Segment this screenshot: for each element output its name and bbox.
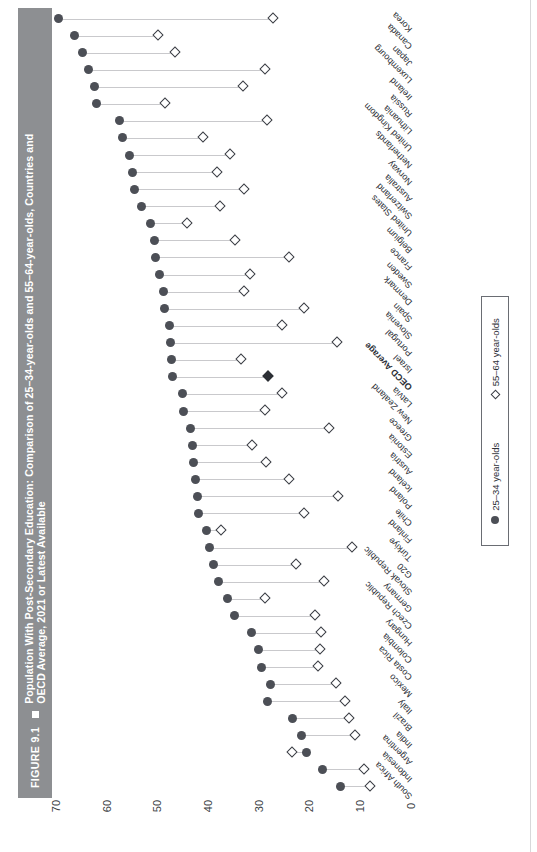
data-point-55-64[interactable] [330,678,341,689]
legend-item-25-34[interactable]: 25–34 year-olds [490,443,501,524]
data-point-25-34[interactable] [118,133,127,142]
data-point-55-64[interactable] [260,405,271,416]
data-point-25-34[interactable] [188,441,197,450]
data-point-55-64[interactable] [323,422,334,433]
data-point-55-64[interactable] [215,200,226,211]
data-point-25-34[interactable] [205,543,214,552]
data-point-25-34[interactable] [223,594,232,603]
data-point-55-64[interactable] [238,285,249,296]
data-point-55-64[interactable] [339,695,350,706]
data-point-25-34[interactable] [92,99,101,108]
data-point-55-64[interactable] [343,712,354,723]
data-point-25-34[interactable] [288,714,297,723]
data-point-25-34[interactable] [54,14,63,23]
data-point-25-34[interactable] [266,680,275,689]
data-point-55-64[interactable] [333,490,344,501]
connector-line [214,565,297,566]
data-point-25-34[interactable] [159,287,168,296]
data-point-55-64[interactable] [299,507,310,518]
data-point-25-34[interactable] [166,338,175,347]
data-point-25-34[interactable] [247,628,256,637]
data-point-55-64[interactable] [244,268,255,279]
connector-line [252,633,321,634]
data-point-25-34[interactable] [150,236,159,245]
data-point-55-64[interactable] [346,541,357,552]
data-point-25-34[interactable] [230,611,239,620]
data-point-25-34[interactable] [115,116,124,125]
data-point-25-34[interactable] [90,82,99,91]
data-point-55-64[interactable] [152,29,163,40]
data-point-55-64[interactable] [315,627,326,638]
data-point-25-34[interactable] [318,765,327,774]
data-point-55-64[interactable] [314,644,325,655]
connector-line [270,684,336,685]
data-point-25-34[interactable] [130,185,139,194]
data-point-25-34[interactable] [146,219,155,228]
data-point-25-34[interactable] [202,526,211,535]
data-point-25-34[interactable] [194,509,203,518]
data-point-25-34[interactable] [214,577,223,586]
data-point-25-34[interactable] [168,372,177,381]
data-point-25-34[interactable] [189,458,198,467]
data-point-55-64[interactable] [283,251,294,262]
data-point-25-34[interactable] [263,697,272,706]
connector-line [88,70,265,71]
legend-item-55-64[interactable]: 55–64 year-olds [490,318,501,398]
data-point-25-34[interactable] [167,355,176,364]
data-point-25-34[interactable] [151,253,160,262]
data-point-55-64[interactable] [312,661,323,672]
data-point-55-64[interactable] [290,558,301,569]
data-point-55-64[interactable] [364,780,375,791]
data-point-55-64[interactable] [287,746,298,757]
data-point-55-64[interactable] [358,763,369,774]
data-point-55-64[interactable] [169,46,180,57]
axis-tick-text: 50 [151,800,163,812]
data-point-25-34[interactable] [209,560,218,569]
data-point-55-64[interactable] [349,729,360,740]
data-point-25-34[interactable] [254,645,263,654]
data-point-25-34[interactable] [78,48,87,57]
data-point-25-34[interactable] [165,321,174,330]
data-point-25-34[interactable] [179,407,188,416]
data-point-55-64[interactable] [309,610,320,621]
data-point-25-34[interactable] [160,304,169,313]
data-point-25-34[interactable] [70,31,79,40]
data-point-55-64[interactable] [197,132,208,143]
data-point-55-64[interactable] [276,388,287,399]
data-point-55-64[interactable] [160,98,171,109]
data-point-25-34[interactable] [155,270,164,279]
data-point-25-34[interactable] [297,731,306,740]
data-point-55-64[interactable] [259,63,270,74]
data-point-55-64[interactable] [319,575,330,586]
data-point-55-64[interactable] [238,183,249,194]
data-point-25-34[interactable] [84,65,93,74]
data-point-55-64[interactable] [237,81,248,92]
data-point-55-64[interactable] [182,217,193,228]
data-point-55-64[interactable] [268,12,279,23]
data-point-55-64[interactable] [235,354,246,365]
data-point-55-64[interactable] [247,439,258,450]
data-point-25-34[interactable] [128,168,137,177]
data-point-55-64[interactable] [216,524,227,535]
data-point-55-64[interactable] [262,371,273,382]
data-point-55-64[interactable] [284,473,295,484]
data-point-55-64[interactable] [229,234,240,245]
data-point-25-34[interactable] [178,389,187,398]
data-point-55-64[interactable] [276,319,287,330]
data-point-55-64[interactable] [225,149,236,160]
data-point-25-34[interactable] [193,492,202,501]
data-point-25-34[interactable] [186,424,195,433]
data-point-55-64[interactable] [298,302,309,313]
data-point-25-34[interactable] [336,782,345,791]
data-point-55-64[interactable] [260,592,271,603]
data-point-55-64[interactable] [261,456,272,467]
data-point-55-64[interactable] [261,115,272,126]
data-point-55-64[interactable] [212,166,223,177]
data-point-55-64[interactable] [332,337,343,348]
data-point-25-34[interactable] [302,748,311,757]
data-point-25-34[interactable] [191,475,200,484]
data-point-25-34[interactable] [137,202,146,211]
data-point-25-34[interactable] [125,151,134,160]
data-point-25-34[interactable] [257,663,266,672]
chart-legend[interactable]: 25–34 year-olds 55–64 year-olds [481,296,509,546]
